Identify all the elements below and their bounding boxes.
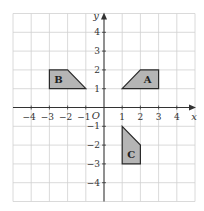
y-tick-label: 3 <box>94 46 100 56</box>
y-tick-label: −3 <box>87 159 101 169</box>
shape-label-c: C <box>127 149 135 160</box>
x-tick-label: 4 <box>174 112 180 122</box>
y-tick-label: 4 <box>94 27 100 37</box>
x-tick-label: 2 <box>138 112 144 122</box>
tick-labels: −4−3−2−112344321−1−2−3−4Oxy <box>23 10 198 188</box>
x-tick-label: −2 <box>59 112 72 122</box>
x-tick-label: −3 <box>41 112 55 122</box>
y-tick-label: −4 <box>87 178 101 188</box>
y-tick-label: −1 <box>87 121 100 131</box>
x-axis-label: x <box>191 111 197 122</box>
x-tick-label: 3 <box>156 112 162 122</box>
y-tick-label: −2 <box>87 140 100 150</box>
origin-label: O <box>92 110 100 121</box>
y-tick-label: 2 <box>94 65 100 75</box>
x-tick-label: 1 <box>119 112 125 122</box>
y-axis-label: y <box>92 10 99 21</box>
axes <box>13 13 196 202</box>
shape-a <box>122 70 158 89</box>
shape-label-a: A <box>143 74 152 85</box>
x-tick-label: −1 <box>77 112 90 122</box>
x-tick-label: −4 <box>23 112 37 122</box>
coordinate-grid-diagram: ABC −4−3−2−112344321−1−2−3−4Oxy <box>0 0 204 211</box>
y-tick-label: 1 <box>94 84 100 94</box>
shape-label-b: B <box>54 74 62 85</box>
